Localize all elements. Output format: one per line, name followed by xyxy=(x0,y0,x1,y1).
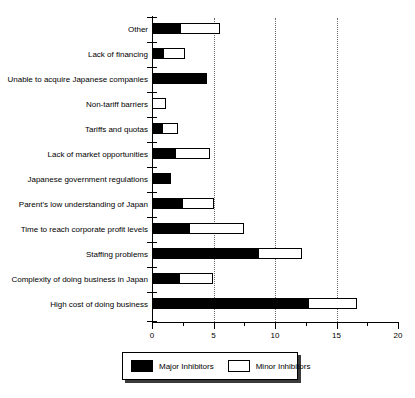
chart-legend: Major Inhibitors Minor Inhibitors xyxy=(122,352,298,380)
x-axis-tick-20 xyxy=(398,322,399,329)
bar-segment-minor xyxy=(163,48,185,59)
bar-segment-major xyxy=(152,198,182,209)
category-label-other: Other xyxy=(0,25,148,34)
x-axis-tick-15 xyxy=(337,322,338,329)
x-axis-label-10: 10 xyxy=(265,331,285,340)
bar-segment-major xyxy=(152,148,175,159)
bar-segment-minor xyxy=(182,198,214,209)
y-axis-tick xyxy=(147,292,157,293)
x-axis-label-5: 5 xyxy=(204,331,224,340)
bar-segment-major xyxy=(152,298,308,309)
bar-segment-minor xyxy=(152,98,166,109)
gridline-10 xyxy=(275,18,276,322)
category-label-tariffs-and-quotas: Tariffs and quotas xyxy=(0,125,148,134)
y-axis-tick xyxy=(147,117,157,118)
gridline-15 xyxy=(337,18,338,322)
category-label-unable-to-acquire-japanese-companies: Unable to acquire Japanese companies xyxy=(0,75,148,84)
bar-segment-major xyxy=(152,123,162,134)
y-axis-tick xyxy=(147,217,157,218)
bar-segment-minor xyxy=(179,273,213,284)
y-axis-tick xyxy=(147,17,157,18)
bar-segment-major xyxy=(152,273,179,284)
category-label-parents-low-understanding-of-japan: Parent's low understanding of Japan xyxy=(0,200,148,209)
bar-segment-major xyxy=(152,248,258,259)
bar-segment-minor xyxy=(308,298,357,309)
y-axis-tick xyxy=(147,267,157,268)
category-label-time-to-reach-corporate-profit-levels: Time to reach corporate profit levels xyxy=(0,225,148,234)
legend-label: Major Inhibitors xyxy=(159,362,214,371)
y-axis-tick xyxy=(147,67,157,68)
legend-entry-major-inhibitors: Major Inhibitors xyxy=(131,360,214,372)
x-axis-tick-5 xyxy=(214,322,215,329)
bar-segment-major xyxy=(152,23,180,34)
y-axis-tick xyxy=(147,242,157,243)
category-label-staffing-problems: Staffing problems xyxy=(0,250,148,259)
legend-swatch-filled-icon xyxy=(131,360,153,372)
x-axis-label-20: 20 xyxy=(388,331,408,340)
x-axis-tick-17.5 xyxy=(367,322,368,326)
y-axis-tick xyxy=(147,142,157,143)
category-label-lack-of-market-opportunities: Lack of market opportunities xyxy=(0,150,148,159)
caption-text xyxy=(0,388,415,398)
bar-segment-minor xyxy=(162,123,178,134)
category-label-non-tariff-barriers: Non-tariff barriers xyxy=(0,100,148,109)
category-label-complexity-of-doing-business-in-japan: Complexity of doing business in Japan xyxy=(0,275,148,284)
bar-segment-minor xyxy=(258,248,302,259)
x-axis-label-0: 0 xyxy=(142,331,162,340)
y-axis-tick xyxy=(147,42,157,43)
y-axis-tick xyxy=(147,92,157,93)
x-axis-tick-7.5 xyxy=(244,322,245,326)
bar-segment-minor xyxy=(189,223,244,234)
y-axis-tick xyxy=(147,167,157,168)
x-axis-label-15: 15 xyxy=(327,331,347,340)
bar-segment-minor xyxy=(175,148,209,159)
legend-label: Minor Inhibitors xyxy=(256,362,311,371)
bar-segment-major xyxy=(152,48,163,59)
legend-swatch-outline-icon xyxy=(228,360,250,372)
bar-segment-major xyxy=(152,173,171,184)
category-label-lack-of-financing: Lack of financing xyxy=(0,50,148,59)
x-axis-tick-0 xyxy=(152,322,153,329)
gridline-5 xyxy=(214,18,215,322)
bar-segment-minor xyxy=(180,23,219,34)
y-axis-tick xyxy=(147,192,157,193)
category-label-high-cost-of-doing-business: High cost of doing business xyxy=(0,300,148,309)
bar-segment-major xyxy=(152,73,207,84)
x-axis-tick-2.5 xyxy=(183,322,184,326)
bar-chart: 0 5 10 15 20 Other Lack of financing Una… xyxy=(0,0,415,398)
x-axis-tick-12.5 xyxy=(306,322,307,326)
bar-segment-major xyxy=(152,223,189,234)
category-label-japanese-government-regulations: Japanese government regulations xyxy=(0,175,148,184)
legend-entry-minor-inhibitors: Minor Inhibitors xyxy=(228,360,311,372)
x-axis-tick-10 xyxy=(275,322,276,329)
